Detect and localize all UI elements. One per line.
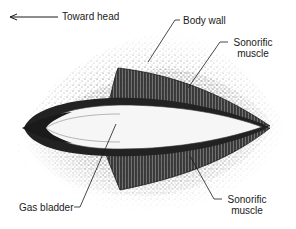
sonorific-muscle-top-line1: Sonorific xyxy=(228,37,278,48)
sonorific-muscle-bottom-label: Sonorific muscle xyxy=(222,194,272,216)
gas-bladder-label: Gas bladder xyxy=(19,202,73,213)
sonorific-muscle-bottom-line2: muscle xyxy=(222,205,272,216)
sonorific-muscle-top-label: Sonorific muscle xyxy=(228,37,278,59)
sonorific-muscle-top-line2: muscle xyxy=(228,48,278,59)
toward-head-label: Toward head xyxy=(62,11,119,22)
sonorific-muscle-bottom-line1: Sonorific xyxy=(222,194,272,205)
body-wall-label: Body wall xyxy=(183,15,226,26)
left-arrow-icon xyxy=(10,14,58,20)
